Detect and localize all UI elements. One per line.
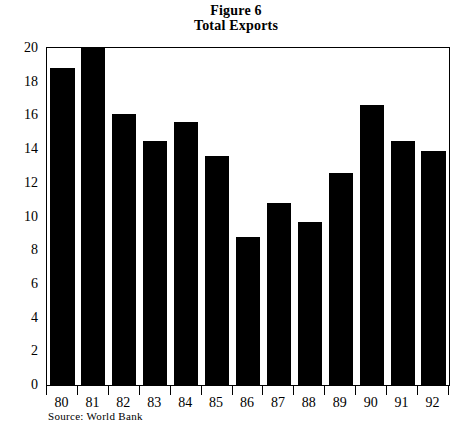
x-tick-label-85: 85 xyxy=(201,395,231,411)
y-tick-label-4: 4 xyxy=(0,311,42,325)
x-tick-mark xyxy=(324,386,325,395)
y-tick-label-16: 16 xyxy=(0,108,42,122)
bar-88 xyxy=(298,222,322,385)
bar-87 xyxy=(267,203,291,385)
x-tick-mark xyxy=(293,386,294,395)
bar-84 xyxy=(174,122,198,385)
bar-90 xyxy=(360,105,384,385)
x-tick-label-92: 92 xyxy=(418,395,448,411)
figure-title-text: Total Exports xyxy=(0,18,472,33)
x-tick-mark xyxy=(448,386,449,395)
figure-number: Figure 6 xyxy=(0,3,472,18)
bar-81 xyxy=(81,48,105,385)
x-tick-label-83: 83 xyxy=(139,395,169,411)
bar-80 xyxy=(50,68,74,385)
bar-92 xyxy=(421,151,445,385)
plot-area xyxy=(47,48,449,385)
y-tick-label-12: 12 xyxy=(0,176,42,190)
x-tick-mark xyxy=(232,386,233,395)
y-tick-label-14: 14 xyxy=(0,142,42,156)
bar-82 xyxy=(112,114,136,385)
x-tick-mark xyxy=(108,386,109,395)
x-tick-label-90: 90 xyxy=(356,395,386,411)
bar-83 xyxy=(143,141,167,385)
y-tick-label-2: 2 xyxy=(0,344,42,358)
y-tick-label-10: 10 xyxy=(0,210,42,224)
y-tick-label-8: 8 xyxy=(0,243,42,257)
x-tick-mark xyxy=(262,386,263,395)
y-tick-label-20: 20 xyxy=(0,41,42,55)
x-tick-label-86: 86 xyxy=(232,395,262,411)
x-tick-mark xyxy=(77,386,78,395)
x-tick-label-88: 88 xyxy=(294,395,324,411)
x-tick-label-87: 87 xyxy=(263,395,293,411)
x-tick-label-89: 89 xyxy=(325,395,355,411)
y-tick-label-0: 0 xyxy=(0,378,42,392)
x-tick-mark xyxy=(355,386,356,395)
y-axis: 02468101214161820 xyxy=(0,47,42,386)
bar-91 xyxy=(391,141,415,385)
x-tick-label-84: 84 xyxy=(170,395,200,411)
bar-86 xyxy=(236,237,260,385)
x-tick-label-80: 80 xyxy=(46,395,76,411)
x-tick-mark xyxy=(417,386,418,395)
x-tick-mark xyxy=(139,386,140,395)
figure-total-exports: Figure 6 Total Exports 02468101214161820… xyxy=(0,0,472,440)
plot-frame xyxy=(46,47,450,386)
bar-85 xyxy=(205,156,229,385)
y-tick-label-18: 18 xyxy=(0,75,42,89)
x-tick-label-81: 81 xyxy=(77,395,107,411)
x-tick-mark xyxy=(46,386,47,395)
source-note: Source: World Bank xyxy=(48,410,143,423)
x-tick-mark xyxy=(386,386,387,395)
x-tick-label-82: 82 xyxy=(108,395,138,411)
y-tick-label-6: 6 xyxy=(0,277,42,291)
x-tick-mark xyxy=(170,386,171,395)
figure-title: Figure 6 Total Exports xyxy=(0,3,472,33)
x-tick-label-91: 91 xyxy=(387,395,417,411)
x-tick-mark xyxy=(201,386,202,395)
bar-89 xyxy=(329,173,353,385)
